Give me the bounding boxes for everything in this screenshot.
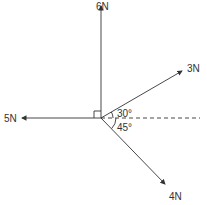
force-label-3n: 3N xyxy=(187,63,200,74)
right-angle-marker xyxy=(94,111,101,118)
force-label-6n: 6N xyxy=(96,1,109,12)
force-label-4n: 4N xyxy=(169,191,182,202)
force-arrow-3n xyxy=(101,71,182,118)
angle-arc-45 xyxy=(112,118,116,129)
angle-label-45: 45° xyxy=(117,122,132,133)
force-diagram: 6N 5N 3N 4N 30° 45° xyxy=(0,0,207,205)
angle-label-30: 30° xyxy=(117,108,132,119)
force-arrow-4n xyxy=(101,118,165,184)
force-label-5n: 5N xyxy=(4,113,17,124)
angle-arc-30 xyxy=(111,112,113,118)
